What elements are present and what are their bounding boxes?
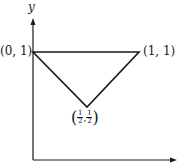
fraction-y-num: 1 <box>87 110 91 117</box>
y-axis-arrow-icon <box>31 18 36 25</box>
paren-close: ) <box>92 108 98 127</box>
fraction-x-num: 1 <box>78 110 82 117</box>
fraction-x-den: 2 <box>78 118 82 125</box>
triangle <box>33 52 139 107</box>
vertex-label-0-1: (0, 1) <box>0 44 32 58</box>
vertex-label-1-1: (1, 1) <box>143 44 175 58</box>
fraction-y-den: 2 <box>87 118 91 125</box>
x-axis-arrow-icon <box>170 158 177 163</box>
vertex-label-half-half: (12,12) <box>71 108 99 127</box>
y-axis-label: y <box>28 0 35 14</box>
diagram-canvas <box>0 0 178 163</box>
